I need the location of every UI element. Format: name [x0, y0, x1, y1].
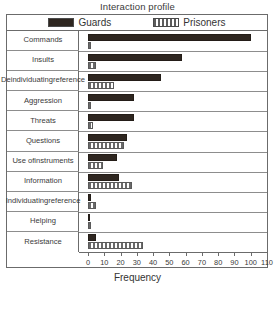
x-tick-label: 80 — [214, 258, 222, 267]
category-label: Individuatingreference — [7, 192, 79, 212]
row-separator — [79, 152, 267, 153]
row-separator — [79, 91, 267, 92]
category-label: Information — [7, 172, 79, 192]
legend-swatch-prisoners-icon — [153, 18, 179, 27]
category-label: Insults — [7, 51, 79, 71]
category-label: Deindividuatingreference — [7, 71, 79, 91]
x-tick — [186, 252, 187, 256]
x-tick-label: 10 — [100, 258, 108, 267]
chart-title: Interaction profile — [0, 1, 275, 12]
bar-prisoners-aggression — [88, 102, 91, 109]
legend-label-guards: Guards — [78, 17, 111, 28]
bar-guards-resistance — [88, 234, 96, 241]
x-tick — [202, 252, 203, 256]
x-tick — [251, 252, 252, 256]
interaction-profile-chart: Interaction profile Guards Prisoners Com… — [0, 0, 275, 310]
bar-guards-aggression — [88, 94, 134, 101]
bar-guards-insults — [88, 54, 182, 61]
x-tick-label: 110 — [261, 258, 273, 267]
legend-label-prisoners: Prisoners — [183, 17, 225, 28]
bar-guards-use-of-instruments — [88, 154, 117, 161]
row-separator — [79, 172, 267, 173]
x-tick-label: 90 — [230, 258, 238, 267]
x-tick — [234, 252, 235, 256]
category-label: Resistance — [7, 232, 79, 252]
x-tick — [218, 252, 219, 256]
bar-guards-information — [88, 174, 119, 181]
category-label: Threats — [7, 111, 79, 131]
category-axis-labels: CommandsInsultsDeindividuatingreferenceA… — [7, 31, 79, 252]
x-tick-label: 60 — [182, 258, 190, 267]
x-tick-label: 0 — [86, 258, 90, 267]
row-separator — [79, 51, 267, 52]
bar-prisoners-resistance — [88, 242, 143, 249]
legend-swatch-guards-icon — [48, 18, 74, 27]
category-label: Use ofinstruments — [7, 152, 79, 172]
bar-guards-commands — [88, 34, 251, 41]
x-tick — [153, 252, 154, 256]
x-tick-label: 30 — [133, 258, 141, 267]
x-tick — [104, 252, 105, 256]
x-tick-label: 20 — [116, 258, 124, 267]
row-separator — [79, 71, 267, 72]
bar-prisoners-helping — [88, 222, 91, 229]
bar-prisoners-deindividuating-reference — [88, 82, 114, 89]
x-axis-title: Frequency — [0, 272, 275, 283]
bar-guards-individuating-reference — [88, 194, 91, 201]
x-tick — [267, 252, 268, 256]
bar-prisoners-individuating-reference — [88, 202, 96, 209]
x-axis-line — [79, 252, 267, 253]
x-tick-label: 100 — [245, 258, 257, 267]
bar-guards-questions — [88, 134, 127, 141]
row-separator — [79, 212, 267, 213]
bar-guards-threats — [88, 114, 134, 121]
legend-item-prisoners: Prisoners — [153, 17, 225, 28]
x-tick-label: 70 — [198, 258, 206, 267]
row-separator — [79, 192, 267, 193]
bar-prisoners-insults — [88, 62, 96, 69]
category-label: Aggression — [7, 91, 79, 111]
legend-item-guards: Guards — [48, 17, 111, 28]
bar-prisoners-commands — [88, 42, 91, 49]
x-tick — [137, 252, 138, 256]
x-tick — [121, 252, 122, 256]
row-separator — [79, 111, 267, 112]
chart-legend: Guards Prisoners — [7, 15, 267, 31]
category-label: Questions — [7, 131, 79, 151]
category-label: Helping — [7, 212, 79, 232]
bar-prisoners-questions — [88, 142, 124, 149]
bar-prisoners-use-of-instruments — [88, 162, 103, 169]
bar-guards-helping — [88, 214, 90, 221]
row-separator — [79, 131, 267, 132]
bar-guards-deindividuating-reference — [88, 74, 161, 81]
plot-area — [79, 31, 267, 252]
category-label: Commands — [7, 31, 79, 51]
bar-prisoners-information — [88, 182, 132, 189]
row-separator — [79, 232, 267, 233]
bar-prisoners-threats — [88, 122, 93, 129]
x-tick-label: 50 — [165, 258, 173, 267]
x-tick — [169, 252, 170, 256]
x-tick-label: 40 — [149, 258, 157, 267]
x-tick — [88, 252, 89, 256]
